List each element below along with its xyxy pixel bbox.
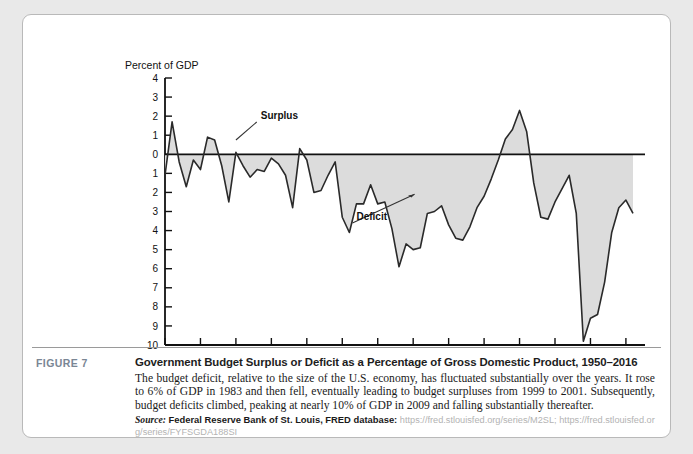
annotation-label: Deficit: [356, 211, 387, 222]
y-tick-label: 3: [152, 206, 158, 217]
budget-deficit-chart: Percent of GDP43210123456789101950195519…: [33, 23, 660, 349]
caption-body: Government Budget Surplus or Deficit as …: [135, 353, 655, 438]
figure-number-label: FIGURE 7: [36, 357, 132, 369]
y-tick-label: 5: [152, 244, 158, 255]
y-tick-label: 4: [152, 73, 158, 84]
y-tick-label: 3: [152, 92, 158, 103]
y-tick-label: 6: [152, 263, 158, 274]
source-publisher: Federal Reserve Bank of St. Louis, FRED …: [169, 414, 398, 425]
figure-title: Government Budget Surplus or Deficit as …: [135, 353, 655, 370]
annotation-leader: [236, 122, 257, 140]
caption-divider: [32, 347, 661, 348]
chart-region: Percent of GDP43210123456789101950195519…: [33, 23, 660, 349]
figure-description: The budget deficit, relative to the size…: [135, 372, 655, 412]
y-tick-label: 1: [152, 168, 158, 179]
y-tick-label: 0: [152, 149, 158, 160]
y-tick-label: 1: [152, 130, 158, 141]
y-tick-label: 9: [152, 321, 158, 332]
figure-source: Source: Federal Reserve Bank of St. Loui…: [135, 414, 655, 438]
series-area: [165, 110, 633, 341]
source-url-primary[interactable]: https://fred.stlouisfed.org/series/M2SL;: [400, 415, 557, 425]
y-tick-label: 7: [152, 282, 158, 293]
y-tick-label: 4: [152, 225, 158, 236]
y-tick-label: 8: [152, 301, 158, 312]
annotation-label: Surplus: [261, 110, 299, 121]
y-axis-title: Percent of GDP: [125, 59, 199, 71]
figure-caption: FIGURE 7 Government Budget Surplus or De…: [32, 353, 661, 433]
figure-card: Percent of GDP43210123456789101950195519…: [22, 14, 671, 438]
y-tick-label: 2: [152, 111, 158, 122]
y-tick-label: 2: [152, 187, 158, 198]
source-word: Source:: [135, 414, 166, 425]
